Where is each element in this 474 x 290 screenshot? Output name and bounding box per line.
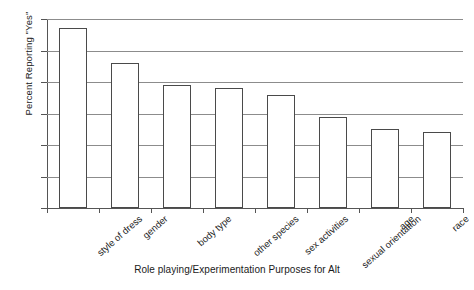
x-tick-label: gender: [140, 213, 170, 241]
x-tick-mark: [307, 208, 308, 213]
x-tick-mark: [151, 208, 152, 213]
x-tick-mark: [99, 208, 100, 213]
bar: [215, 88, 243, 208]
x-tick-label: race: [450, 213, 471, 233]
x-tick-mark: [359, 208, 360, 213]
y-axis-title: Percent Reporting "Yes": [23, 0, 34, 154]
x-axis-title: Role playing/Experimentation Purposes fo…: [0, 264, 474, 275]
x-tick-label: style of dress: [95, 213, 144, 258]
bar: [371, 129, 399, 208]
bar: [267, 95, 295, 208]
gridline: [47, 51, 463, 52]
x-tick-mark: [255, 208, 256, 213]
bar: [111, 63, 139, 208]
gridline: [47, 114, 463, 115]
bar: [319, 117, 347, 208]
x-tick-mark: [47, 208, 48, 213]
bar: [59, 28, 87, 208]
gridline: [47, 19, 463, 20]
x-tick-mark: [203, 208, 204, 213]
x-tick-label: body type: [195, 213, 233, 248]
bar-chart: Percent Reporting "Yes" 0102030405060 st…: [0, 0, 474, 290]
x-tick-label: sex activities: [302, 213, 350, 257]
gridline: [47, 145, 463, 146]
plot-area: [47, 19, 463, 208]
x-tick-label: other species: [251, 213, 301, 258]
bar: [423, 132, 451, 208]
gridline: [47, 177, 463, 178]
gridline: [47, 82, 463, 83]
bar: [163, 85, 191, 208]
x-tick-mark: [411, 208, 412, 213]
